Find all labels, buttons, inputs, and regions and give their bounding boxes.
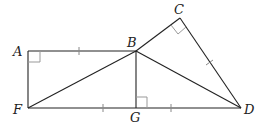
segment-cd <box>180 18 241 108</box>
segment-bd <box>136 51 241 108</box>
geometry-diagram: A B C D F G <box>0 0 262 123</box>
right-angle-marker-g <box>136 97 147 108</box>
right-angle-marker-c <box>171 25 186 34</box>
point-label-b: B <box>126 35 137 50</box>
point-label-a: A <box>12 44 22 59</box>
right-angle-marker-a <box>28 51 40 62</box>
segment-bf <box>28 51 136 108</box>
point-label-c: C <box>174 2 184 17</box>
segment-bc <box>136 18 180 51</box>
point-label-d: D <box>243 102 255 117</box>
point-label-f: F <box>12 102 23 117</box>
point-label-g: G <box>130 110 140 123</box>
